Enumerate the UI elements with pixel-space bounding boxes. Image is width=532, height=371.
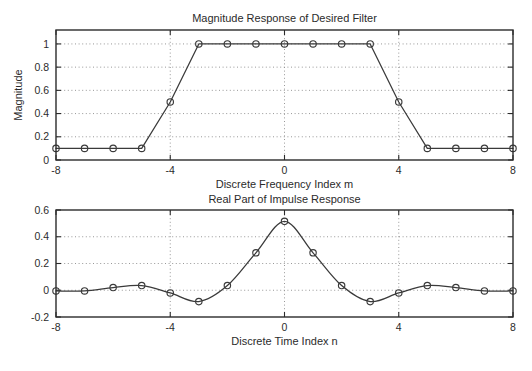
plot-top-ylabel: Magnitude — [12, 69, 24, 120]
plot-bottom-xticklabel: 8 — [510, 321, 516, 333]
figure-svg: Magnitude Response of Desired Filter00.2… — [0, 0, 532, 371]
plot-bottom-yticklabel: 0 — [43, 284, 49, 296]
plot-top-yticklabel: 0.6 — [34, 84, 49, 96]
plot-top-xlabel: Discrete Frequency Index m — [216, 178, 354, 190]
plot-bottom-xticklabel: -4 — [166, 321, 175, 333]
plot-top-yticklabel: 1 — [43, 38, 49, 50]
magnitude-response-plot: Magnitude Response of Desired Filter00.2… — [12, 12, 516, 190]
plot-top-yticklabel: 0 — [43, 154, 49, 166]
plot-bottom-xlabel: Discrete Time Index n — [231, 335, 337, 347]
plot-top-xticklabel: 8 — [510, 164, 516, 176]
plot-top-xticklabel: -4 — [166, 164, 175, 176]
figure-canvas: Magnitude Response of Desired Filter00.2… — [0, 0, 532, 371]
plot-bottom-xticklabel: 4 — [396, 321, 402, 333]
plot-bottom-yticklabel: 0.2 — [34, 257, 49, 269]
plot-top-yticklabel: 0.8 — [34, 61, 49, 73]
plot-bottom-xticklabel: -8 — [51, 321, 60, 333]
plot-bottom-yticklabel: 0.4 — [34, 230, 49, 242]
plot-top-xticklabel: 4 — [396, 164, 402, 176]
plot-bottom-yticklabel: -0.2 — [31, 311, 49, 323]
plot-bottom-xticklabel: 0 — [282, 321, 288, 333]
plot-bottom-title: Real Part of Impulse Response — [208, 193, 360, 205]
plot-bottom-yticklabel: 0.6 — [34, 204, 49, 216]
impulse-response-plot: Real Part of Impulse Response-0.200.20.4… — [31, 193, 516, 347]
plot-top-yticklabel: 0.2 — [34, 130, 49, 142]
plot-top-title: Magnitude Response of Desired Filter — [192, 12, 377, 24]
plot-top-xticklabel: -8 — [51, 164, 60, 176]
plot-top-xticklabel: 0 — [282, 164, 288, 176]
plot-top-yticklabel: 0.4 — [34, 107, 49, 119]
